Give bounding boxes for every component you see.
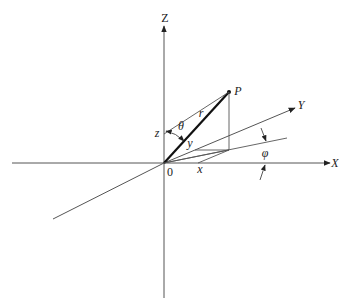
y-axis-negative [53,163,164,219]
y-axis [164,108,295,163]
point-p-label: P [234,85,241,97]
phi-arrow-top [261,128,266,141]
z-coord-label: z [155,127,160,139]
y-coord-label: y [187,137,192,149]
x-component-line [198,150,229,163]
x-coord-label: x [197,163,202,175]
origin-label: 0 [167,166,173,178]
phi-arrow-bottom [260,165,265,180]
spherical-coordinate-diagram [0,0,339,302]
radius-label: r [199,107,204,119]
z-axis-label: Z [161,12,168,24]
phi-label: φ [262,147,269,159]
x-axis-label: X [331,157,338,169]
theta-label: θ [178,120,184,132]
y-axis-label: Y [298,99,305,111]
